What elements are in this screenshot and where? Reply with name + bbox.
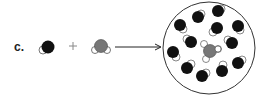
reaction-diagram [0,0,259,96]
solvent-molecule-icon [39,41,55,55]
plus-icon [69,42,77,50]
arrow-icon [115,44,161,50]
solute-molecule-icon [92,40,111,54]
solution-container [163,2,255,94]
